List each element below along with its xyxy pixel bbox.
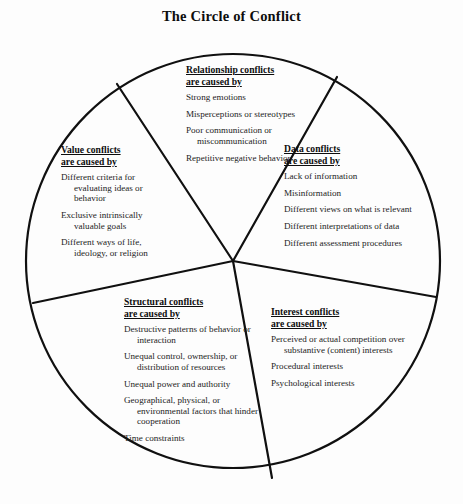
list-item: Exclusive intrinsically valuable goals: [61, 210, 173, 231]
list-item: Different ways of life, ideology, or rel…: [61, 237, 173, 258]
sector-heading: Relationship conflicts are caused by: [186, 64, 318, 87]
list-item: Different assessment procedures: [284, 238, 444, 249]
sector-heading-line-1: Value conflicts: [61, 144, 173, 156]
list-item: Perceived or actual competition over sub…: [271, 334, 425, 355]
list-item: Strong emotions: [186, 92, 318, 103]
sector-heading-line-1: Interest conflicts: [271, 306, 425, 318]
sector-heading: Value conflicts are caused by: [61, 144, 173, 167]
sector-interest-conflicts: Interest conflicts are caused by Perceiv…: [271, 306, 425, 389]
list-item: Misperceptions or stereotypes: [186, 109, 318, 120]
list-item: Geographical, physical, or environmental…: [124, 395, 264, 427]
sector-heading-line-1: Data conflicts: [284, 143, 444, 155]
divider-data-interest: [233, 261, 436, 297]
list-item: Procedural interests: [271, 361, 425, 372]
sector-heading-line-2: are caused by: [124, 308, 264, 320]
sector-heading-line-2: are caused by: [284, 155, 444, 167]
sector-heading-line-1: Structural conflicts: [124, 296, 264, 308]
sector-heading: Interest conflicts are caused by: [271, 306, 425, 329]
list-item: Different interpretations of data: [284, 221, 444, 232]
list-item: Psychological interests: [271, 378, 425, 389]
sector-structural-conflicts: Structural conflicts are caused by Destr…: [124, 296, 264, 444]
list-item: Unequal control, ownership, or distribut…: [124, 351, 264, 372]
sector-heading-line-1: Relationship conflicts: [186, 64, 318, 76]
circle-of-conflict-diagram: The Circle of Conflict Relationship conf…: [0, 0, 463, 504]
list-item: Lack of information: [284, 171, 444, 182]
sector-data-conflicts: Data conflicts are caused by Lack of inf…: [284, 143, 444, 248]
sector-value-conflicts: Value conflicts are caused by Different …: [61, 144, 173, 258]
sector-item-list: Destructive patterns of behavior or inte…: [124, 324, 264, 443]
sector-heading: Structural conflicts are caused by: [124, 296, 264, 319]
list-item: Destructive patterns of behavior or inte…: [124, 324, 264, 345]
sector-heading: Data conflicts are caused by: [284, 143, 444, 166]
sector-item-list: Lack of information Misinformation Diffe…: [284, 171, 444, 248]
sector-heading-line-2: are caused by: [61, 156, 173, 168]
list-item: Different criteria for evaluating ideas …: [61, 172, 173, 204]
sector-item-list: Different criteria for evaluating ideas …: [61, 172, 173, 258]
list-item: Unequal power and authority: [124, 379, 264, 390]
sector-heading-line-2: are caused by: [186, 76, 318, 88]
sector-item-list: Perceived or actual competition over sub…: [271, 334, 425, 388]
list-item: Time constraints: [124, 433, 264, 444]
list-item: Misinformation: [284, 188, 444, 199]
sector-heading-line-2: are caused by: [271, 318, 425, 330]
list-item: Different views on what is relevant: [284, 204, 444, 215]
